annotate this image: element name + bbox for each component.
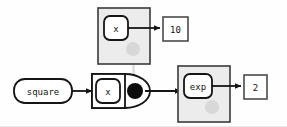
diagram-svg: square x x exp 10 2 [0, 0, 287, 127]
node-x-mid-label: x [105, 87, 111, 97]
port-ghost-top-icon[interactable] [126, 42, 140, 56]
node-x-top-label: x [113, 24, 119, 34]
node-composite-mid[interactable] [92, 74, 150, 108]
node-exp-label: exp [190, 82, 206, 92]
port-filled-mid-icon[interactable] [127, 83, 143, 99]
diagram-canvas: square x x exp 10 2 [0, 0, 287, 127]
value-2-label: 2 [253, 83, 258, 93]
port-ghost-exp-icon[interactable] [205, 100, 219, 114]
node-square-label: square [27, 87, 60, 97]
value-10-label: 10 [170, 25, 181, 35]
